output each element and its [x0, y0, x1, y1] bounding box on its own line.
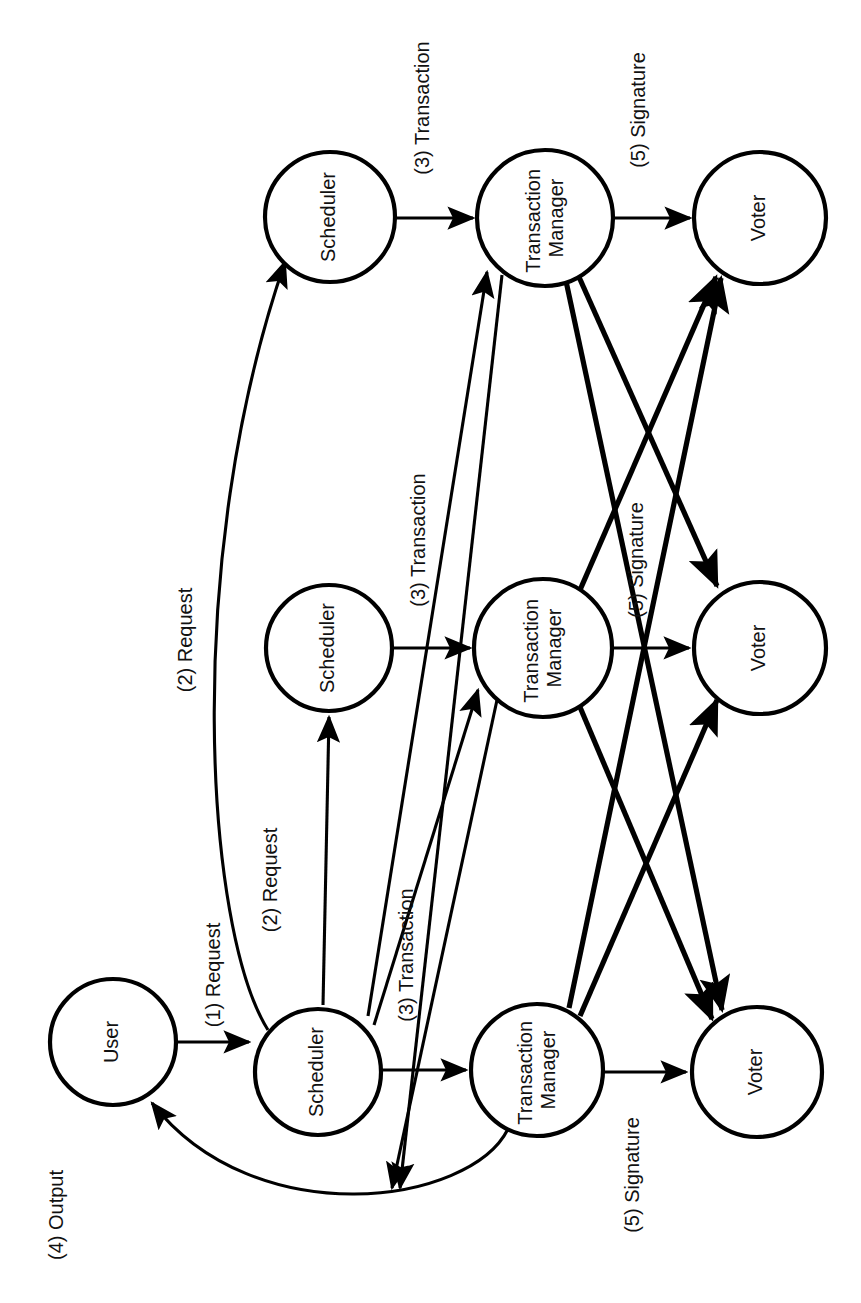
- tm3-line2: Manager: [545, 178, 567, 257]
- edge-label-5-signature-a: (5) Signature: [621, 1117, 643, 1233]
- node-scheduler-3-label: Scheduler: [317, 172, 339, 262]
- node-voter-2-label: Voter: [747, 624, 769, 671]
- edge-label-3-transaction-a: (3) Transaction: [395, 888, 417, 1021]
- node-voter-2[interactable]: Voter: [694, 582, 826, 714]
- node-user-label: User: [100, 1021, 122, 1064]
- node-voter-1-label: Voter: [744, 1048, 766, 1095]
- edge-label-1-request: (1) Request: [202, 922, 224, 1027]
- node-scheduler-2-label: Scheduler: [316, 603, 338, 693]
- tm2-line2: Manager: [543, 608, 565, 687]
- node-scheduler-3[interactable]: Scheduler: [265, 152, 395, 282]
- tm1-line2: Manager: [537, 1030, 559, 1109]
- tm1-line1: Transaction: [514, 1021, 536, 1125]
- node-transaction-manager-1[interactable]: Transaction Manager: [471, 1004, 603, 1136]
- node-transaction-manager-3[interactable]: Transaction Manager: [477, 150, 613, 286]
- tm2-line1: Transaction: [520, 599, 542, 703]
- edge-scheduler1-to-scheduler2: [323, 717, 329, 1005]
- diagram-canvas: User Scheduler Scheduler Scheduler Trans…: [0, 0, 861, 1303]
- node-scheduler-1-label: Scheduler: [305, 1027, 327, 1117]
- node-transaction-manager-3-label: Transaction Manager: [522, 163, 567, 272]
- edges-layer: [152, 218, 722, 1194]
- node-transaction-manager-1-label: Transaction Manager: [514, 1015, 559, 1124]
- node-voter-3-label: Voter: [747, 194, 769, 241]
- edge-label-2-request-b: (2) Request: [174, 587, 196, 692]
- architecture-diagram: User Scheduler Scheduler Scheduler Trans…: [0, 0, 861, 1303]
- node-scheduler-1[interactable]: Scheduler: [255, 1009, 381, 1135]
- edge-label-5-signature-c: (5) Signature: [627, 52, 649, 168]
- edge-label-3-transaction-b: (3) Transaction: [407, 473, 429, 606]
- node-user[interactable]: User: [50, 979, 176, 1105]
- node-transaction-manager-2-label: Transaction Manager: [520, 593, 565, 702]
- node-voter-3[interactable]: Voter: [694, 152, 826, 284]
- node-transaction-manager-2[interactable]: Transaction Manager: [474, 579, 612, 717]
- node-scheduler-2[interactable]: Scheduler: [266, 585, 392, 711]
- edge-label-3-transaction-c: (3) Transaction: [411, 41, 433, 174]
- edge-label-4-output: (4) Output: [45, 1170, 67, 1260]
- edge-label-2-request-a: (2) Request: [259, 827, 281, 932]
- node-voter-1[interactable]: Voter: [692, 1007, 822, 1137]
- tm3-line1: Transaction: [522, 169, 544, 273]
- edge-label-5-signature-b: (5) Signature: [625, 502, 647, 618]
